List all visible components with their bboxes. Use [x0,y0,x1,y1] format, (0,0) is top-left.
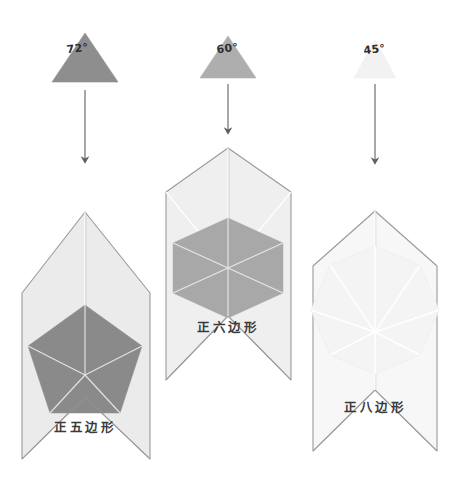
inscribed-octagon [311,246,439,374]
polygon-folding-diagram: 72° 正五边形 [0,0,457,484]
polygon-label-pentagon: 正五边形 [54,420,116,435]
polygon-label-hexagon: 正六边形 [197,320,259,335]
angle-label-octagon: 45° [363,42,386,58]
diagram-canvas: 72° 正五边形 [0,0,457,484]
angle-label-pentagon: 72° [66,41,89,56]
polygon-label-octagon: 正八边形 [344,400,406,415]
angle-label-hexagon: 60° [216,41,239,57]
